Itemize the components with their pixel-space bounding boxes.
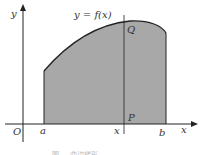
origin-label: O [13,126,21,137]
y-axis-arrow-icon [20,4,26,11]
area-under-curve-diagram: y y = f(x) Q P O a x b x 图 ... 曲边梯形 [0,0,202,155]
x-axis-label: x [181,124,187,135]
shaded-region [44,21,166,124]
x-point-label: x [114,125,120,136]
a-label: a [40,125,46,136]
y-axis-label: y [10,8,17,19]
curve-label: y = f(x) [73,9,112,20]
x-axis-arrow-icon [191,121,198,127]
b-label: b [159,127,165,138]
point-p-label: P [127,112,135,123]
figure-caption: 图 ... 曲边梯形 [52,150,98,155]
point-q-label: Q [127,24,135,35]
